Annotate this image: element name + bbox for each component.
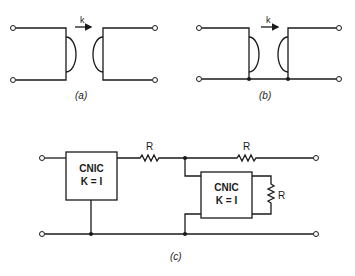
left-port-wires xyxy=(16,28,66,80)
left-port-wires xyxy=(202,28,249,79)
cnic-1-title: CNIC xyxy=(79,163,103,174)
coupling-label: k xyxy=(266,15,271,25)
right-coupling-arc xyxy=(278,37,288,72)
terminal-icon xyxy=(153,26,158,31)
terminal-icon xyxy=(314,156,319,161)
caption-b: (b) xyxy=(259,90,271,101)
terminal-icon xyxy=(11,78,16,83)
resistor-icon xyxy=(117,155,185,161)
junction-dot xyxy=(247,77,251,81)
wire xyxy=(185,214,201,234)
circuit-figure: k (a) k (b) CNIC K = I R xyxy=(0,0,355,276)
terminal-icon xyxy=(337,77,342,82)
right-port-wires xyxy=(103,28,152,80)
resistor-2-label: R xyxy=(243,141,250,152)
caption-a: (a) xyxy=(75,90,87,101)
resistor-icon xyxy=(252,176,274,214)
resistor-1-label: R xyxy=(146,141,153,152)
terminal-icon xyxy=(40,232,45,237)
left-coupling-arc xyxy=(66,37,76,72)
panel-c: CNIC K = I R R CNIC K = I R (c) xyxy=(40,141,319,262)
cnic-1-gain: K = I xyxy=(81,176,103,187)
wire xyxy=(185,158,201,176)
terminal-icon xyxy=(11,26,16,31)
terminal-icon xyxy=(153,78,158,83)
terminal-icon xyxy=(337,26,342,31)
left-coupling-arc xyxy=(249,37,259,72)
terminal-icon xyxy=(314,232,319,237)
resistor-shunt-label: R xyxy=(278,190,285,201)
panel-a: k (a) xyxy=(11,15,158,101)
terminal-icon xyxy=(197,26,202,31)
right-port-wires xyxy=(288,28,336,79)
cnic-2-gain: K = I xyxy=(216,195,238,206)
right-coupling-arc xyxy=(93,37,103,72)
coupling-label: k xyxy=(80,15,85,25)
junction-dot xyxy=(183,232,187,236)
caption-c: (c) xyxy=(170,251,182,262)
junction-dot xyxy=(286,77,290,81)
terminal-icon xyxy=(40,156,45,161)
terminal-icon xyxy=(197,77,202,82)
panel-b: k (b) xyxy=(197,15,342,101)
cnic-2-title: CNIC xyxy=(214,182,238,193)
resistor-icon xyxy=(185,155,313,161)
